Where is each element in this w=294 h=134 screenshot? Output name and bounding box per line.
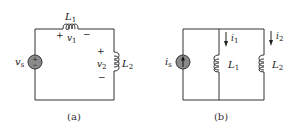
v1-label: v1: [67, 33, 77, 45]
wire-b-frame-bottom: [183, 69, 264, 100]
current-i1-arrow-icon: [224, 32, 228, 47]
current-source-icon: [176, 55, 190, 69]
voltage-source-icon: + −: [28, 55, 42, 70]
inductor-l1-label: L1: [64, 11, 76, 24]
caption-a: (a): [67, 111, 81, 122]
v1-minus-sign: −: [83, 29, 91, 39]
v2-minus-sign: −: [98, 72, 106, 82]
inductor-b-l1-coil-icon: [214, 55, 219, 72]
source-b-label: is: [165, 56, 172, 69]
panel-b: is L1 i1 L2 i2 (b): [165, 29, 283, 122]
v2-label: v2: [97, 59, 107, 71]
v1-plus-sign: +: [56, 30, 64, 40]
current-i1-label: i1: [231, 33, 238, 45]
wire-b-frame: [183, 29, 264, 55]
v2-plus-sign: +: [97, 46, 105, 56]
inductor-l1-coil-icon: [61, 24, 79, 30]
inductor-b-l2-coil-icon: [259, 55, 264, 72]
panel-a: + − vs L1 + v1 − + v2 − L2 (a): [15, 11, 133, 122]
current-i2-arrow-icon: [269, 31, 273, 46]
caption-b: (b): [214, 111, 228, 122]
inductor-b-l2-label: L2: [271, 59, 283, 72]
source-minus-sign: −: [32, 61, 37, 68]
inductor-b-l1-label: L1: [227, 59, 239, 72]
source-a-label: vs: [15, 56, 25, 69]
circuit-figure: + − vs L1 + v1 − + v2 − L2 (a) is: [0, 0, 294, 134]
inductor-l2-label: L2: [121, 58, 133, 71]
current-i2-label: i2: [276, 31, 283, 43]
inductor-l2-coil-icon: [114, 52, 119, 72]
